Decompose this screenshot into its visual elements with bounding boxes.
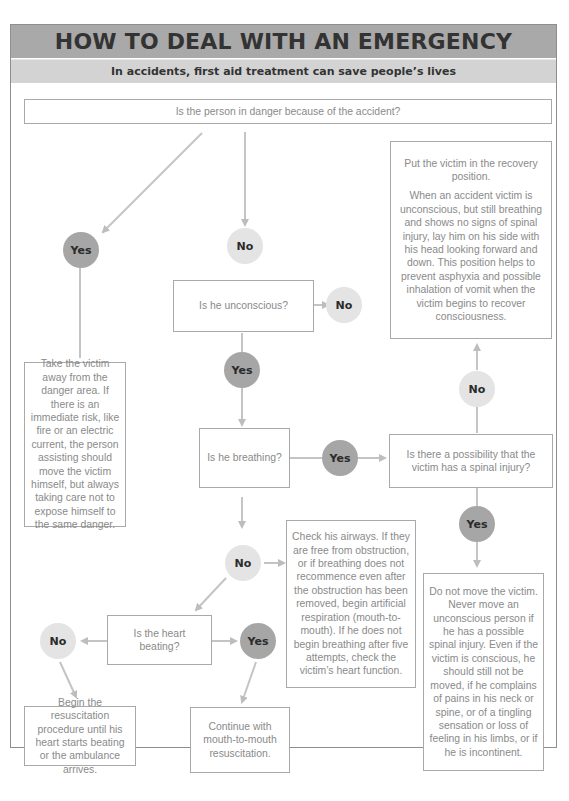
- instruction-airways-text: Check his airways. If they are free from…: [292, 530, 410, 677]
- instruction-check-airways: Check his airways. If they are free from…: [286, 520, 416, 688]
- answer-yes-label: Yes: [248, 635, 269, 648]
- page-title: HOW TO DEAL WITH AN EMERGENCY: [55, 29, 512, 54]
- instruction-do-not-move-text: Do not move the victim. Never move an un…: [429, 585, 538, 759]
- instruction-do-not-move: Do not move the victim. Never move an un…: [423, 573, 544, 771]
- answer-yes-breathing: Yes: [322, 440, 358, 476]
- answer-no-unconscious: No: [326, 287, 362, 323]
- answer-yes-label: Yes: [232, 364, 253, 377]
- answer-yes-spinal: Yes: [459, 506, 495, 542]
- instruction-resuscitation-text: Begin the resuscitation procedure until …: [30, 696, 130, 776]
- answer-yes-label: Yes: [330, 452, 351, 465]
- question-spinal-injury: Is there a possibility that the victim h…: [389, 434, 553, 488]
- answer-no-label: No: [469, 383, 486, 396]
- answer-yes-unconscious: Yes: [224, 352, 260, 388]
- instruction-move-victim-text: Take the victim away from the danger are…: [30, 357, 120, 531]
- question-heart-text: Is the heart beating?: [113, 627, 206, 654]
- question-breathing: Is he breathing?: [199, 428, 290, 488]
- answer-yes-label: Yes: [467, 518, 488, 531]
- question-unconscious-text: Is he unconscious?: [199, 299, 288, 312]
- recovery-body-text: When an accident victim is unconscious, …: [396, 189, 546, 323]
- answer-no-label: No: [237, 240, 254, 253]
- title-band: HOW TO DEAL WITH AN EMERGENCY: [11, 25, 556, 58]
- question-danger-text: Is the person in danger because of the a…: [176, 105, 401, 118]
- answer-yes-label: Yes: [71, 244, 92, 257]
- answer-yes-danger: Yes: [63, 232, 99, 268]
- instruction-move-victim: Take the victim away from the danger are…: [24, 362, 126, 527]
- instruction-recovery-position: Put the victim in the recovery position.…: [390, 141, 552, 339]
- instruction-continue-text: Continue with mouth-to-mouth resuscitati…: [196, 720, 284, 760]
- question-unconscious: Is he unconscious?: [173, 280, 314, 332]
- instruction-resuscitation: Begin the resuscitation procedure until …: [24, 706, 136, 766]
- question-heart-beating: Is the heart beating?: [107, 615, 212, 665]
- answer-no-heart: No: [40, 623, 76, 659]
- answer-no-danger: No: [227, 228, 263, 264]
- answer-no-label: No: [235, 557, 252, 570]
- recovery-title-text: Put the victim in the recovery position.: [396, 157, 546, 184]
- answer-yes-heart: Yes: [240, 623, 276, 659]
- answer-no-breathing: No: [225, 545, 261, 581]
- answer-no-label: No: [336, 299, 353, 312]
- subtitle-band: In accidents, first aid treatment can sa…: [11, 59, 556, 83]
- question-spinal-text: Is there a possibility that the victim h…: [395, 448, 547, 475]
- question-danger: Is the person in danger because of the a…: [24, 99, 552, 124]
- answer-no-spinal: No: [459, 371, 495, 407]
- page-subtitle: In accidents, first aid treatment can sa…: [111, 65, 456, 78]
- answer-no-label: No: [50, 635, 67, 648]
- instruction-continue-mouth-to-mouth: Continue with mouth-to-mouth resuscitati…: [190, 707, 290, 773]
- question-breathing-text: Is he breathing?: [207, 451, 282, 464]
